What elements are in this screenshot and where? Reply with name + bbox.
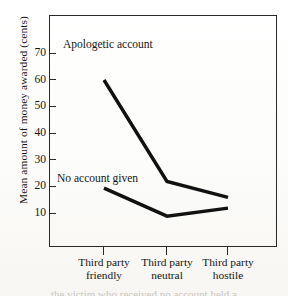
y-axis-tick-label: 10 (24, 206, 46, 219)
chart-page: Mean amount of money awarded (cents) 706… (0, 0, 288, 296)
y-axis-tick-label: 70 (24, 46, 46, 59)
series-label-no-account-given: No account given (57, 172, 138, 184)
x-axis-tick-label-line: hostile (188, 269, 268, 282)
x-axis-tick (103, 247, 104, 255)
x-axis-tick (166, 247, 167, 255)
y-axis-tick-label: 20 (24, 179, 46, 192)
series-label-apologetic-account: Apologetic account (63, 38, 153, 50)
x-axis-tick-label-line: Third party (188, 256, 268, 269)
y-axis-tick-label: 40 (24, 126, 46, 139)
page-edge-artifact: the victim who received no account held … (0, 288, 288, 296)
x-axis-tick (227, 247, 228, 255)
y-axis-tick-label: 60 (24, 73, 46, 86)
x-axis-tick-label: Third partyhostile (188, 256, 268, 281)
y-axis-tick-label: 50 (24, 99, 46, 112)
y-axis-tick-label: 30 (24, 153, 46, 166)
